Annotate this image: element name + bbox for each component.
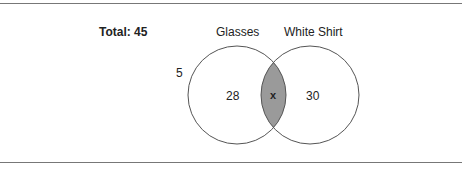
venn-diagram [0,0,473,174]
white-shirt-only-value: 30 [306,89,319,103]
intersection-value: x [270,89,276,101]
bottom-divider [0,162,462,163]
glasses-only-value: 28 [226,89,239,103]
